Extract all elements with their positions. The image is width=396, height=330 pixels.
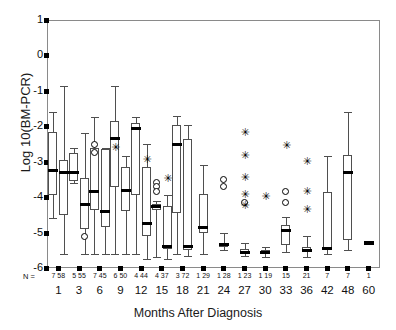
box-iqr [48,132,57,196]
x-axis-title: Months After Diagnosis [0,306,396,320]
median-line [80,203,90,206]
y-axis-tick-label: -2 [13,120,43,131]
whisker-lower [167,249,168,260]
whisker-lower [53,195,54,218]
x-axis-tick [283,266,288,271]
x-axis-tick [77,266,82,271]
whisker-cap-lower [220,250,228,251]
median-line [198,226,208,229]
whisker-cap-upper [132,117,140,118]
median-line-flat [364,241,374,245]
box-iqr [142,167,151,236]
x-axis-tick [56,266,61,271]
y-axis-tick-label: -4 [13,191,43,202]
whisker-upper [64,86,65,160]
extreme-outlier-star: ✳ [303,158,312,165]
whisker-cap-lower [200,254,208,255]
whisker-cap-lower [164,259,172,260]
y-axis-tick [44,231,49,236]
extreme-outlier-star: ✳ [111,144,120,151]
x-axis-tick [180,266,185,271]
n-value: 1 [353,272,385,279]
median-line [131,127,141,130]
median-line [162,245,172,248]
box-iqr [163,206,172,249]
y-axis-tick [44,53,49,58]
median-line [59,171,69,174]
whisker-cap-upper [122,156,130,157]
whisker-upper [85,133,86,177]
whisker-lower [105,227,106,254]
whisker-cap-upper [91,117,99,118]
whisker-upper [177,116,178,125]
median-line [172,143,182,146]
y-axis-tick-label: -5 [13,227,43,238]
whisker-lower [94,210,95,254]
y-axis-tick-label: -1 [13,85,43,96]
extreme-outlier-star: ✳ [163,175,172,182]
whisker-lower [348,240,349,251]
y-axis-tick-label: 0 [13,49,43,60]
whisker-cap-lower [81,254,89,255]
box-iqr [183,139,192,251]
whisker-upper [53,112,54,131]
extreme-outlier-star: ✳ [241,174,250,181]
whisker-cap-lower [153,257,161,258]
box-iqr [90,148,99,210]
y-axis-tick [44,266,49,271]
extreme-outlier-star: ✳ [241,202,250,209]
x-axis-tick [97,266,102,271]
x-axis-tick [366,266,371,271]
whisker-cap-lower [132,254,140,255]
median-line [343,171,353,174]
y-axis-tick-label: -3 [13,156,43,167]
whisker-cap-upper [60,86,68,87]
median-line [48,169,58,172]
whisker-lower [147,236,148,259]
whisker-upper [286,217,287,226]
whisker-cap-upper [262,247,270,248]
median-line [69,171,79,174]
whisker-lower [203,233,204,254]
whisker-cap-upper [220,233,228,234]
x-axis-tick [345,266,350,271]
extreme-outlier-star: ✳ [282,142,291,149]
whisker-cap-upper [81,133,89,134]
median-line [260,251,270,254]
median-line [240,251,250,254]
box-iqr [172,125,181,214]
median-line [110,137,120,140]
extreme-outlier-star: ✳ [303,188,312,195]
whisker-lower [177,213,178,254]
y-axis-tick [44,89,49,94]
whisker-upper [327,156,328,191]
whisker-cap-lower [143,259,151,260]
whisker-upper [348,112,349,155]
median-line [281,229,291,232]
whisker-cap-upper [184,125,192,126]
n-row-label: N = [23,272,35,281]
extreme-outlier-star: ✳ [241,191,250,198]
whisker-cap-lower [70,183,78,184]
extreme-outlier-star: ✳ [143,156,152,163]
y-axis-tick [44,18,49,23]
whisker-cap-lower [344,250,352,251]
whisker-cap-upper [143,144,151,145]
whisker-cap-lower [102,254,110,255]
whisker-cap-lower [111,254,119,255]
extreme-outlier-star: ✳ [241,129,250,136]
whisker-cap-lower [282,252,290,253]
outlier-circle [81,233,88,240]
whisker-lower [136,195,137,253]
whisker-cap-upper [153,201,161,202]
whisker-lower [115,187,116,254]
whisker-cap-upper [200,165,208,166]
whisker-cap-upper [111,86,119,87]
y-axis-tick [44,124,49,129]
median-line [89,190,99,193]
whisker-cap-upper [241,243,249,244]
whisker-cap-upper [344,112,352,113]
x-tick-label: 60 [353,284,385,296]
whisker-lower [156,210,157,258]
box-iqr [110,121,119,187]
